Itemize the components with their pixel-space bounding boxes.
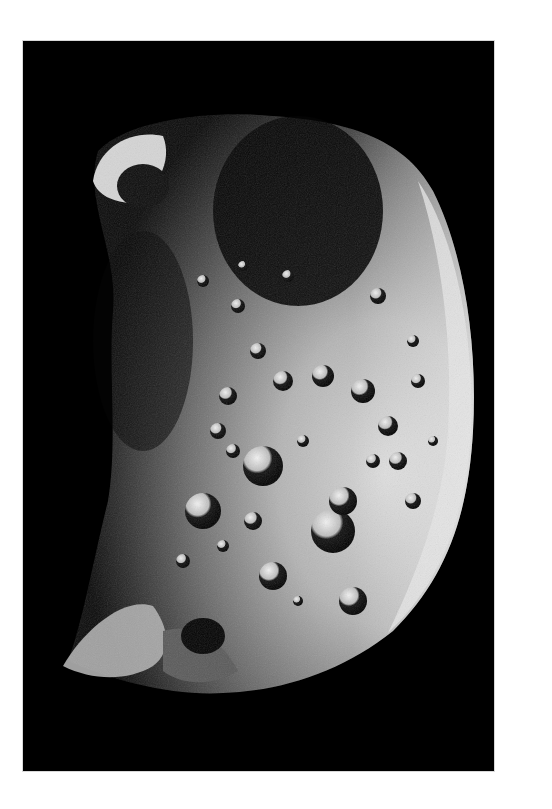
photo-frame [23, 41, 494, 771]
moon-photo [23, 41, 494, 771]
